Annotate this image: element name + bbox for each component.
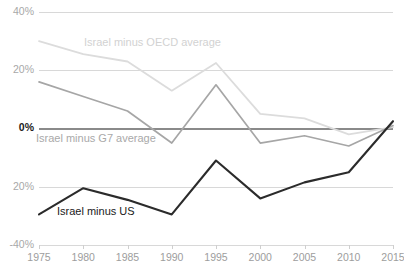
x-axis-label-2010: 2010 xyxy=(337,251,361,263)
chart-container: 40%20%0%20%-40% 197519801985199019952000… xyxy=(0,0,404,272)
x-axis-labels: 197519801985199019952000200520102015 xyxy=(27,251,404,263)
x-axis-label-2000: 2000 xyxy=(249,251,273,263)
y-axis-label-neg20: 20% xyxy=(13,180,34,192)
line-chart: 40%20%0%20%-40% 197519801985199019952000… xyxy=(0,0,404,272)
y-axis-label-0: 0% xyxy=(19,121,35,133)
series-annotation-israel-minus-g7-average: Israel minus G7 average xyxy=(36,132,156,144)
y-axis-label-20: 20% xyxy=(13,63,34,75)
data-series-group xyxy=(39,41,393,214)
series-annotation-israel-minus-us: Israel minus US xyxy=(57,205,135,217)
y-axis-labels: 40%20%0%20%-40% xyxy=(9,5,34,250)
x-axis-label-1975: 1975 xyxy=(27,251,51,263)
y-axis-label-neg40: -40% xyxy=(9,238,34,250)
x-axis-label-2015: 2015 xyxy=(381,251,404,263)
y-axis-label-40: 40% xyxy=(13,5,34,17)
series-line-israel-minus-oecd-average xyxy=(39,41,393,134)
series-annotation-israel-minus-oecd-average: Israel minus OECD average xyxy=(84,36,221,48)
x-axis-label-1985: 1985 xyxy=(116,251,140,263)
x-axis-label-1995: 1995 xyxy=(204,251,228,263)
x-axis-label-1990: 1990 xyxy=(160,251,184,263)
x-axis-label-1980: 1980 xyxy=(72,251,96,263)
x-axis-label-2005: 2005 xyxy=(293,251,317,263)
